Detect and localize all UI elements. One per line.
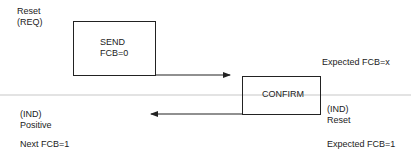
- diagram-lines: [0, 0, 411, 161]
- confirm-box: CONFIRM: [242, 76, 321, 115]
- confirm-box-text: CONFIRM: [262, 89, 304, 100]
- send-box: SEND FCB=0: [73, 21, 156, 76]
- send-box-text: SEND FCB=0: [100, 37, 128, 59]
- reset-req-label: Reset (REQ): [17, 6, 43, 28]
- next-fcb-label: Next FCB=1: [20, 139, 69, 150]
- ind-reset-label: (IND) Reset: [327, 104, 351, 126]
- ind-positive-label: (IND) Positive: [20, 109, 52, 131]
- expected-fcb-1-label: Expected FCB=1: [327, 139, 395, 150]
- expected-fcb-x-label: Expected FCB=x: [322, 57, 390, 68]
